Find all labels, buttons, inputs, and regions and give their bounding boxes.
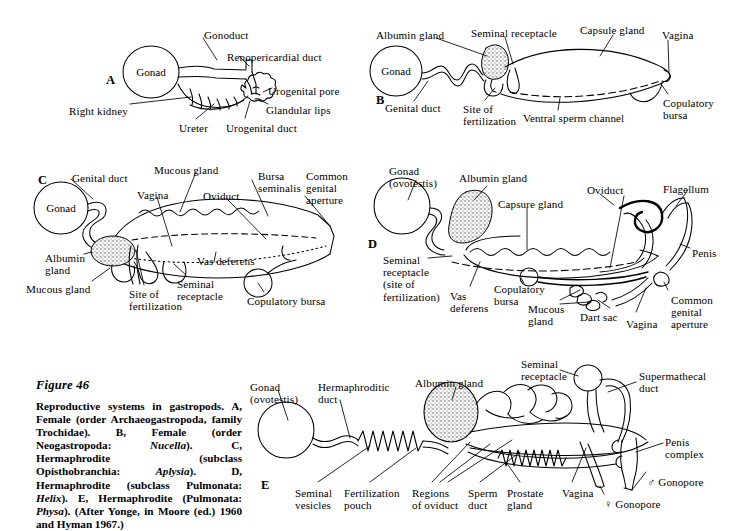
figure-caption-text: Reproductive systems in gastropods. A, F… [36,400,242,531]
panel-e-label-female-gonopore: ♀ Gonopore [604,498,660,510]
panel-a-label-renopericardial-duct: Renopericardial duct [227,51,322,63]
panel-a-label-glandular-lips: Glandular lips [266,104,331,116]
panel-d-label-dart-sac: Dart sac [580,311,617,323]
albumin-gland-c [91,236,135,266]
panel-d-label-capsure-gland: Capsure gland [498,198,563,210]
panel-c-label-vagina: Vagina [137,189,168,201]
figure-caption-title: Figure 46 [36,378,242,393]
panel-e-label-regions-of-oviduct: Regions of oviduct [412,487,458,511]
figure-caption-block: Figure 46 Reproductive systems in gastro… [36,378,242,531]
panel-c-label-seminal-receptacle: Seminal receptacle [177,278,223,302]
panel-e-label-fertilization-pouch: Fertilization pouch [344,487,400,511]
panel-c-label-bursa-seminalis: Bursa seminalis [258,170,301,194]
panel-a-label-ureter: Ureter [179,122,208,134]
panel-d-label-vagina: Vagina [626,318,657,330]
panel-d-label-gonad-ovotestis: Gonad (ovotestis) [389,165,437,189]
panel-e-label-sperm-duct: Sperm duct [468,487,497,511]
panel-c-label-copulatory-bursa: Copulatory bursa [247,295,325,307]
panel-b-label-albumin-gland: Albumin gland [376,29,444,41]
panel-a-label-right-kidney: Right kidney [69,105,128,117]
panel-b-label-genital-duct: Genital duct [385,102,441,114]
panel-e-label-albumin-gland: Albumin gland [415,377,483,389]
panel-a-label-urogenital-duct: Urogenital duct [226,122,297,134]
panel-letter-b: B [376,93,384,108]
panel-d-label-seminal-receptacle: Seminal receptacle (site of fertilizatio… [383,254,440,303]
albumin-gland-e [424,382,478,442]
panel-d-label-penis: Penis [692,247,717,259]
panel-d-label-flagellum: Flagellum [663,183,709,195]
panel-e-label-male-gonopore: ♂ Gonopore [647,476,703,488]
gonad-e [258,402,314,458]
panel-b-label-seminal-receptacle: Seminal receptacle [471,27,557,39]
panel-b-label-site-of-fertilization: Site of fertilization [463,103,516,127]
panel-b-label-copulatory-bursa: Copulatory bursa [663,97,714,121]
panel-letter-c: C [38,173,47,188]
panel-d-label-vas-deferens: Vas deferens [450,290,488,314]
panel-e-label-prostate-gland: Prostate gland [507,487,544,511]
panel-c-label-site-of-fertilization: Site of fertilization [129,288,182,312]
panel-a-organ-gonad: Gonad [136,66,166,78]
panel-c-label-albumin-gland: Albumin gland [45,252,85,276]
panel-letter-e: E [261,478,269,493]
panel-e-label-supermathecal-duct: Supermathecal duct [639,370,706,394]
panel-b-label-vagina: Vagina [662,29,693,41]
panel-a-label-urogenital-pore: Urogenital pore [268,85,339,97]
panel-c-label-mucous-gland-top: Mucous gland [154,164,218,176]
panel-c-label-mucous-gland-bottom: Mucous gland [26,283,90,295]
panel-e-label-seminal-receptacle: Seminal receptacle [521,358,567,382]
panel-d-label-common-genital-aperture: Common genital aperture [671,294,713,331]
albumin-gland-d [449,190,492,243]
panel-e-label-gonad-ovotestis: Gonad (ovotestis) [250,381,298,405]
panel-e-label-penis-complex: Penis complex [665,436,704,460]
panel-d-label-albumin-gland: Albumin gland [459,172,527,184]
panel-c-organ-gonad: Gonad [46,202,76,214]
panel-letter-a: A [106,73,115,88]
panel-c-label-common-genital-aperture: Common genital aperture [306,170,348,207]
panel-e-label-seminal-vesicles: Seminal vesicles [295,487,332,511]
panel-b-diagram [370,35,670,110]
panel-d-label-oviduct: Oviduct [587,184,623,196]
panel-b-label-ventral-sperm-channel: Ventral sperm channel [523,112,624,124]
panel-c-label-oviduct: Oviduct [203,190,239,202]
panel-e-label-vagina: Vagina [562,487,593,499]
panel-a-label-gonoduct: Gonoduct [204,29,249,41]
panel-c-label-genital-duct: Genital duct [72,172,128,184]
panel-b-organ-gonad: Gonad [381,65,411,77]
panel-e-label-hermaphroditic-duct: Hermaphroditic duct [318,381,390,405]
seminal-receptacle-e [574,365,602,391]
panel-c-label-vas-deferens: Vas deferens [197,255,255,267]
panel-d-label-mucous-gland: Mucous gland [528,303,564,327]
panel-b-label-capsule-gland: Capsule gland [580,24,644,36]
albumin-gland-b [482,45,509,80]
panel-letter-d: D [368,237,377,252]
